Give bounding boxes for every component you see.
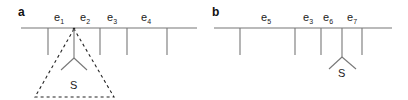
- edge-label: e3: [107, 11, 117, 25]
- panel-a: a S e1 e2 e3 e4: [18, 5, 197, 97]
- edge-label: e7: [347, 11, 357, 25]
- edge-label: e4: [141, 11, 151, 25]
- panel-label: a: [18, 5, 25, 19]
- edge-label: e1: [54, 11, 64, 25]
- edge-label: e5: [261, 11, 271, 25]
- edge-label: e6: [323, 11, 333, 25]
- subtree-branch: [61, 58, 74, 70]
- subtree-branch: [74, 58, 87, 70]
- panel-b: b S e5 e3 e6 e7: [212, 5, 392, 79]
- edge-label: e3: [303, 11, 313, 25]
- subtree-label: S: [338, 67, 345, 79]
- tree-diagram: a S e1 e2 e3 e4 b S e5 e3 e6 e7: [0, 0, 408, 100]
- subtree-label: S: [70, 79, 77, 91]
- edge-label: e2: [80, 11, 90, 25]
- panel-label: b: [212, 5, 219, 19]
